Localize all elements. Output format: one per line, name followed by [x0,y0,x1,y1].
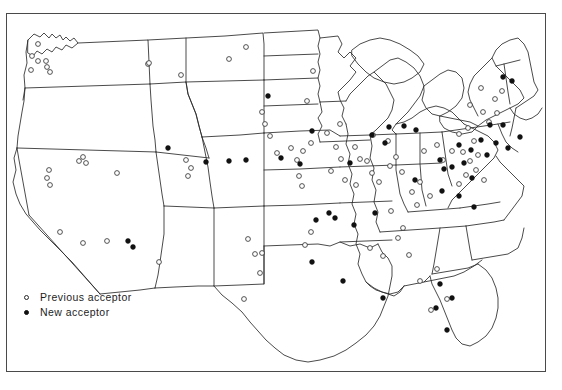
previous-acceptor-marker [468,159,473,164]
previous-acceptor-marker [407,253,412,258]
new-acceptor-marker [450,296,455,301]
previous-acceptor-marker [263,122,268,127]
new-acceptor-marker [445,328,450,333]
filled-circle-icon [24,310,29,315]
new-acceptor-marker [298,162,303,167]
previous-acceptor-marker [368,246,373,251]
previous-acceptor-marker [365,159,370,164]
previous-acceptor-marker [370,171,375,176]
legend-row-new: New acceptor [22,305,172,320]
previous-acceptor-marker [227,57,232,62]
new-acceptor-marker [126,239,131,244]
previous-acceptor-marker [48,183,53,188]
previous-acceptor-marker [81,155,86,160]
new-acceptor-marker [510,79,515,84]
new-acceptor-marker [414,128,419,133]
previous-acceptor-marker [260,110,265,115]
previous-acceptor-marker [47,168,52,173]
previous-acceptor-marker [410,190,415,195]
previous-acceptor-marker [400,170,405,175]
previous-acceptor-marker [495,111,500,116]
new-acceptor-marker [462,161,467,166]
previous-acceptor-marker [311,69,316,74]
new-acceptor-marker [479,138,484,143]
previous-acceptor-marker [301,149,306,154]
legend-label-previous: Previous acceptor [40,290,132,305]
previous-acceptor-marker [29,68,34,73]
previous-acceptor-marker [303,243,308,248]
previous-acceptor-marker [474,168,479,173]
previous-acceptor-marker [258,271,263,276]
previous-acceptor-marker [44,59,49,64]
previous-acceptor-marker [184,158,189,163]
new-acceptor-marker [434,306,439,311]
new-acceptor-marker [310,260,315,265]
previous-acceptor-marker [246,237,251,242]
previous-acceptor-marker [429,308,434,313]
previous-acceptor-marker [253,252,258,257]
previous-acceptor-marker [309,141,314,146]
previous-acceptor-marker [147,61,152,66]
previous-acceptor-marker [186,174,191,179]
previous-acceptor-marker [289,146,294,151]
previous-acceptor-marker [418,279,423,284]
previous-acceptor-marker [30,54,35,59]
previous-acceptor-marker [36,59,41,64]
previous-acceptor-marker [353,145,358,150]
new-acceptor-marker [438,158,443,163]
previous-acceptor-marker [260,251,265,256]
new-acceptor-marker [166,146,171,151]
previous-acceptor-marker [464,173,469,178]
previous-acceptor-marker [481,110,486,115]
previous-acceptor-marker [493,97,498,102]
previous-acceptor-marker [396,236,401,241]
previous-acceptor-marker [343,178,348,183]
previous-acceptor-marker [461,150,466,155]
previous-acceptor-marker [422,149,427,154]
previous-acceptor-marker [388,164,393,169]
new-acceptor-marker [333,216,338,221]
previous-acceptor-marker [468,103,473,108]
previous-acceptor-marker [377,180,382,185]
new-acceptor-marker [341,279,346,284]
previous-acceptor-marker [358,157,363,162]
previous-acceptor-marker [450,149,455,154]
previous-acceptor-marker [242,297,247,302]
new-acceptor-marker [131,245,136,250]
previous-acceptor-marker [457,132,462,137]
previous-acceptor-marker [189,166,194,171]
previous-acceptor-marker [48,70,53,75]
previous-acceptor-markers [29,42,505,313]
previous-acceptor-marker [115,171,120,176]
new-acceptor-marker [506,146,511,151]
new-acceptor-marker [314,218,319,223]
previous-acceptor-marker [58,230,63,235]
previous-acceptor-marker [325,131,330,136]
figure-page: Previous acceptor New acceptor [0,0,562,390]
new-acceptor-marker [204,160,209,165]
previous-acceptor-marker [81,241,86,246]
previous-acceptor-marker [45,176,50,181]
previous-acceptor-marker [472,139,477,144]
previous-acceptor-marker [445,297,450,302]
new-acceptor-marker [442,167,447,172]
new-acceptor-marker [501,123,506,128]
new-acceptor-marker [327,211,332,216]
new-acceptor-marker [457,194,462,199]
previous-acceptor-marker [482,178,487,183]
previous-acceptor-marker [435,143,440,148]
new-acceptor-marker [494,141,499,146]
new-acceptor-marker [279,156,284,161]
legend-row-previous: Previous acceptor [22,290,172,305]
previous-acceptor-marker [334,145,339,150]
open-circle-icon [24,295,29,300]
previous-acceptor-marker [329,169,334,174]
new-acceptor-marker [387,125,392,130]
new-acceptor-marker [310,129,315,134]
previous-acceptor-marker [268,134,273,139]
new-acceptor-marker [472,205,477,210]
new-acceptor-marker [266,94,271,99]
new-acceptor-marker [227,159,232,164]
previous-acceptor-marker [479,86,484,91]
previous-acceptor-marker [394,155,399,160]
